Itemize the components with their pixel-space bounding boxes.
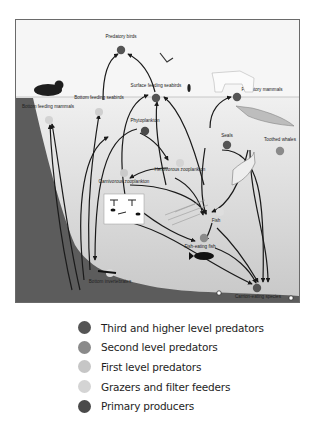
legend-label: Primary producers [101, 400, 194, 412]
legend-item-second-level: Second level predators [78, 338, 308, 358]
node-predatory-birds [117, 46, 125, 54]
legend-label: Second level predators [101, 341, 218, 353]
label-toothed-whales: Toothed whales [264, 137, 297, 142]
legend: Third and higher level predators Second … [78, 318, 308, 416]
legend-dot-icon [78, 321, 91, 334]
label-bottom-invertebrates: Bottom invertebrates [89, 279, 132, 284]
node-toothed-whales [276, 147, 284, 155]
label-herbivorous-zooplankton: Herbivorous zooplankton [155, 167, 206, 172]
legend-dot-icon [78, 380, 91, 393]
legend-dot-icon [78, 400, 91, 413]
legend-item-third-level: Third and higher level predators [78, 318, 308, 338]
label-seals: Seals [221, 133, 233, 138]
node-bottom-feeding-seabirds [95, 108, 103, 116]
node-fish-eating-fish [200, 234, 208, 242]
legend-dot-icon [78, 341, 91, 354]
legend-label: Grazers and filter feeders [101, 381, 230, 393]
node-herbivorous-zooplankton [176, 159, 184, 167]
label-predatory-birds: Predatory birds [105, 34, 137, 39]
label-bottom-feeding-seabirds: Bottom feeding seabirds [74, 95, 124, 100]
zooplankton-inset [104, 194, 144, 224]
node-carrion-eating-species [253, 284, 261, 292]
node-fish [216, 208, 224, 216]
penguin-icon [187, 84, 190, 92]
legend-label: Third and higher level predators [101, 322, 264, 334]
label-surface-feeding-seabirds: Surface feeding seabirds [131, 83, 183, 88]
label-fish: Fish [212, 218, 221, 223]
node-predatory-mammals [233, 93, 241, 101]
node-surface-feeding-seabirds [152, 94, 160, 102]
label-fish-eating-fish: Fish-eating fish [184, 244, 216, 249]
node-carnivorous-zooplankton [120, 169, 128, 177]
node-bottom-feeding-mammals [45, 116, 53, 124]
label-carnivorous-zooplankton: Carnivorous zooplankton [99, 179, 150, 184]
label-carrion-eating-species: Carrion-eating species [235, 294, 282, 299]
legend-label: First level predators [101, 361, 201, 373]
label-bottom-feeding-mammals: Bottom feeding mammals [22, 104, 75, 109]
legend-item-primary-producers: Primary producers [78, 396, 308, 416]
label-phytoplankton: Phytoplankton [130, 118, 160, 123]
node-phytoplankton [141, 127, 149, 135]
legend-dot-icon [78, 360, 91, 373]
node-seals [223, 141, 231, 149]
food-web-diagram: Predatory birds Bottom feeding seabirds … [0, 0, 314, 310]
legend-item-grazers: Grazers and filter feeders [78, 377, 308, 397]
legend-item-first-level: First level predators [78, 357, 308, 377]
